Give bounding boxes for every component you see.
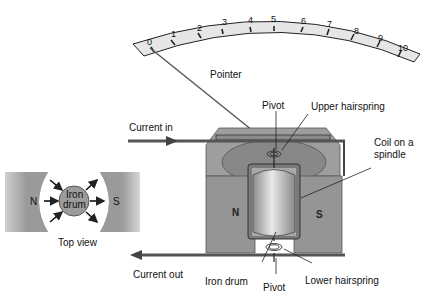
pivot-top-label: Pivot: [262, 100, 284, 111]
top-view-pole-n: N: [30, 196, 37, 207]
iron-drum: [253, 170, 295, 237]
coil-label: spindle: [374, 149, 406, 160]
scale-tick-label: 9: [378, 33, 383, 43]
lower-hairspring-label: Lower hairspring: [305, 275, 379, 286]
pole-n-label: N: [232, 207, 239, 218]
meter-scale: 0 1 2 3 4 5 6 7 8 9 10: [133, 14, 420, 62]
scale-tick-label: 8: [354, 26, 359, 36]
scale-tick-label: 1: [171, 29, 176, 39]
pole-s-label: S: [316, 209, 323, 220]
scale-tick-label: 3: [222, 17, 227, 27]
top-view-pole-s: S: [113, 196, 120, 207]
upper-hairspring-label: Upper hairspring: [311, 101, 385, 112]
scale-tick-label: 10: [398, 43, 408, 53]
scale-tick-label: 0: [147, 37, 152, 47]
top-view-caption: Top view: [58, 237, 98, 248]
lower-hairspring: [258, 241, 292, 253]
scale-tick-label: 6: [301, 16, 306, 26]
iron-drum-label: Iron drum: [205, 276, 248, 287]
pivot-bottom-label: Pivot: [263, 282, 285, 293]
scale-tick-label: 7: [327, 19, 332, 29]
scale-tick-label: 2: [197, 23, 202, 33]
moving-coil-meter-diagram: 0 1 2 3 4 5 6 7 8 9 10 N S Iron drum Top…: [0, 0, 427, 295]
current-out-label: Current out: [133, 269, 183, 280]
current-out-arrow: [130, 250, 142, 260]
scale-tick-label: 4: [248, 15, 253, 25]
scale-tick-label: 5: [271, 14, 276, 24]
current-in-arrow: [166, 136, 178, 146]
top-view: N S Iron drum Top view: [5, 172, 140, 248]
pointer-label: Pointer: [210, 69, 242, 80]
top-view-drum-label: drum: [63, 199, 86, 210]
current-in-label: Current in: [129, 122, 173, 133]
coil-label: Coil on a: [374, 137, 414, 148]
